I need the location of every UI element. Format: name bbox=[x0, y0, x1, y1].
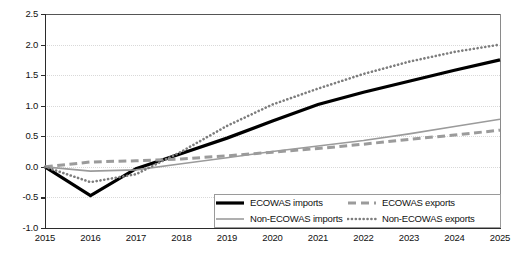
x-axis-tick-label: 2019 bbox=[205, 233, 249, 243]
x-axis-tick-label: 2017 bbox=[114, 233, 158, 243]
y-axis-tick-label: 1.0 bbox=[4, 101, 38, 111]
y-axis-tick-label: 0.0 bbox=[4, 162, 38, 172]
legend-swatch-dashed-gray-icon bbox=[347, 198, 377, 208]
x-axis-tick-label: 2018 bbox=[160, 233, 204, 243]
y-axis-tick-label: 2.5 bbox=[4, 9, 38, 19]
legend-item: ECOWAS imports bbox=[215, 195, 347, 211]
series-line-non-ecowas-imports bbox=[45, 119, 500, 171]
x-axis-tick-label: 2020 bbox=[251, 233, 295, 243]
y-axis-tick-label: -1.0 bbox=[4, 223, 38, 233]
legend-item: Non-ECOWAS exports bbox=[347, 211, 502, 227]
legend-item: ECOWAS exports bbox=[347, 195, 502, 211]
x-axis-tick-label: 2021 bbox=[296, 233, 340, 243]
x-axis-tick-label: 2015 bbox=[23, 233, 67, 243]
x-axis-line bbox=[45, 228, 501, 229]
legend-swatch-dotted-gray-icon bbox=[347, 214, 377, 224]
legend-label: Non-ECOWAS exports bbox=[382, 214, 475, 224]
legend-swatch-solid-black-thick-icon bbox=[215, 198, 245, 208]
legend-label: ECOWAS imports bbox=[250, 198, 323, 208]
legend-label: ECOWAS exports bbox=[382, 198, 455, 208]
x-axis-tick-label: 2025 bbox=[478, 233, 512, 243]
series-line-ecowas-exports bbox=[45, 130, 500, 167]
y-axis-tick-label: 2.0 bbox=[4, 40, 38, 50]
y-axis-tick-label: -0.5 bbox=[4, 192, 38, 202]
x-axis-tick-label: 2016 bbox=[69, 233, 113, 243]
x-axis-tick-label: 2023 bbox=[387, 233, 431, 243]
x-axis-tick-label: 2022 bbox=[342, 233, 386, 243]
y-axis-tick-label: 0.5 bbox=[4, 131, 38, 141]
line-chart: -1.0-0.50.00.51.01.52.02.5 2015201620172… bbox=[0, 0, 512, 263]
chart-legend: ECOWAS importsECOWAS exportsNon-ECOWAS i… bbox=[214, 194, 501, 228]
legend-item: Non-ECOWAS imports bbox=[215, 211, 347, 227]
x-axis-tick-label: 2024 bbox=[433, 233, 477, 243]
series-line-ecowas-imports bbox=[45, 60, 500, 196]
legend-label: Non-ECOWAS imports bbox=[250, 214, 343, 224]
legend-swatch-solid-gray-thin-icon bbox=[215, 214, 245, 224]
y-axis-tick-label: 1.5 bbox=[4, 70, 38, 80]
